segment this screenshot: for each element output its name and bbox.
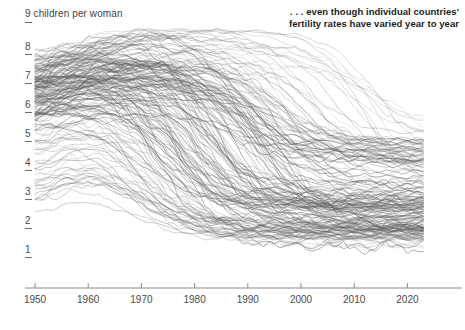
axis-layer: [0, 0, 465, 330]
fertility-spaghetti-chart: 9 children per woman . . . even though i…: [0, 0, 465, 330]
